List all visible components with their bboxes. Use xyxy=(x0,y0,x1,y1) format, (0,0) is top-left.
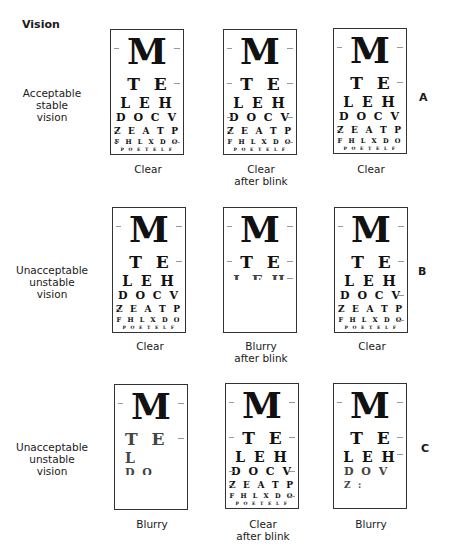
chart-line: P O E T E L F xyxy=(334,146,406,152)
row-label-c: Unacceptable unstable vision xyxy=(0,441,104,477)
tick-mark xyxy=(114,131,119,132)
tick-mark xyxy=(398,295,404,296)
tick-mark xyxy=(398,226,404,227)
tick-mark xyxy=(398,320,404,321)
row-label-line: stable xyxy=(0,99,104,111)
tick-mark xyxy=(227,261,232,262)
chart-line: P O E T E L F xyxy=(224,147,296,153)
tick-mark xyxy=(287,261,293,262)
tick-mark xyxy=(178,438,184,439)
tick-mark xyxy=(397,47,403,48)
chart-line: M xyxy=(226,386,298,424)
chart-line: D O C V xyxy=(224,112,296,124)
tick-mark xyxy=(118,403,123,404)
eye-chart-a1: M T E L E H D O C V Z E A T P F H L X D … xyxy=(110,29,184,155)
chart-line: M xyxy=(334,386,406,424)
caption-line: Clear xyxy=(216,163,306,175)
caption-line: Blurry xyxy=(216,340,306,352)
chart-line: P O E T E L F xyxy=(226,501,298,507)
tick-mark xyxy=(397,402,403,403)
caption-b1: Clear xyxy=(105,340,195,352)
chart-line: P O E T E L F xyxy=(113,325,185,331)
chart-line: L E H xyxy=(335,274,407,289)
row-label-line: vision xyxy=(0,465,104,477)
tick-mark xyxy=(398,261,404,262)
tick-mark xyxy=(397,82,403,83)
caption-line: Blurry xyxy=(326,518,416,530)
row-marker-b: B xyxy=(418,265,426,278)
tick-mark xyxy=(114,48,119,49)
chart-line: Z E A T P xyxy=(224,126,296,136)
chart-line: Z E A T P xyxy=(113,304,185,314)
chart-line: L E H xyxy=(334,450,406,465)
chart-line: F H L X D O xyxy=(335,316,407,324)
tick-mark xyxy=(229,437,234,438)
eye-chart-c2: M T E L E H D O C V Z E A T P F H L X D … xyxy=(225,383,299,509)
caption-a2: Clear after blink xyxy=(216,163,306,187)
chart-line: D O C V xyxy=(334,111,406,123)
chart-line: T E xyxy=(226,429,298,447)
row-label-line: vision xyxy=(0,288,104,300)
eye-chart-b2-blurry: M T E L E H xyxy=(223,207,297,333)
tick-mark xyxy=(289,437,295,438)
tick-mark xyxy=(337,130,342,131)
chart-line: P O E T E L F xyxy=(111,147,183,153)
caption-line: Clear xyxy=(103,163,193,175)
caption-c2: Clear after blink xyxy=(218,518,308,542)
chart-line: T E xyxy=(111,75,183,93)
chart-line: M xyxy=(115,387,187,425)
row-label-line: Unacceptable xyxy=(0,441,104,453)
tick-mark xyxy=(229,471,234,472)
chart-line: L E H xyxy=(111,96,183,111)
tick-mark xyxy=(174,142,180,143)
chart-line: T E xyxy=(224,75,296,93)
chart-line: M xyxy=(224,32,296,70)
chart-line-partial: D O xyxy=(115,467,187,475)
chart-line: Z E A T P xyxy=(226,480,298,490)
chart-line: Z E A T P xyxy=(334,125,406,135)
tick-mark xyxy=(287,226,293,227)
tick-mark xyxy=(227,117,232,118)
chart-line: L E H xyxy=(334,95,406,110)
caption-b3: Clear xyxy=(327,340,417,352)
row-marker-c: C xyxy=(421,442,429,455)
tick-mark xyxy=(116,226,121,227)
row-label-line: unstable xyxy=(0,453,104,465)
row-label-line: vision xyxy=(0,111,104,123)
tick-mark xyxy=(289,402,295,403)
column-heading-vision: Vision xyxy=(22,18,60,31)
tick-mark xyxy=(287,278,293,279)
chart-line: L E H xyxy=(113,274,185,289)
caption-line: Clear xyxy=(105,340,195,352)
tick-mark xyxy=(337,47,342,48)
tick-mark xyxy=(176,226,182,227)
caption-b2: Blurry after blink xyxy=(216,340,306,364)
chart-line-partial: D O V xyxy=(334,466,406,478)
eye-chart-c3-blurry: M T E L E H D O V Z : xyxy=(333,383,407,509)
chart-line: F H L X D O xyxy=(111,138,183,146)
caption-line: after blink xyxy=(218,530,308,542)
caption-a1: Clear xyxy=(103,163,193,175)
row-label-line: Unacceptable xyxy=(0,264,104,276)
chart-line: T E xyxy=(113,253,185,271)
tick-mark xyxy=(287,83,293,84)
chart-line: M xyxy=(111,32,183,70)
chart-line: M xyxy=(224,210,296,248)
tick-mark xyxy=(338,226,343,227)
chart-line: F H L X D O xyxy=(224,138,296,146)
tick-mark xyxy=(287,48,293,49)
tick-mark xyxy=(229,485,234,486)
chart-line: T E xyxy=(334,429,406,447)
tick-mark xyxy=(227,226,232,227)
eye-chart-b1: M T E L E H D O C V Z E A T P F H L X D … xyxy=(112,207,186,333)
row-label-line: unstable xyxy=(0,276,104,288)
eye-chart-b3: M T E L E H D O C V Z E A T P F H L X D … xyxy=(334,207,408,333)
eye-chart-a2: M T E L E H D O C V Z E A T P F H L X D … xyxy=(223,29,297,155)
chart-line: D O C V xyxy=(226,466,298,478)
chart-line: M xyxy=(334,31,406,69)
chart-line: Z E A T P xyxy=(111,126,183,136)
caption-c1: Blurry xyxy=(107,518,197,530)
tick-mark xyxy=(289,471,295,472)
chart-line: M xyxy=(113,210,185,248)
tick-mark xyxy=(114,142,119,143)
